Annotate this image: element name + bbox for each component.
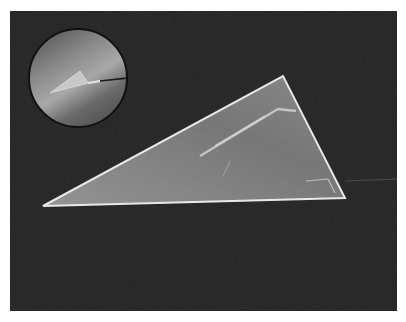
inset-view xyxy=(29,29,128,127)
micrograph-image xyxy=(10,11,397,311)
micrograph-frame xyxy=(10,11,397,311)
